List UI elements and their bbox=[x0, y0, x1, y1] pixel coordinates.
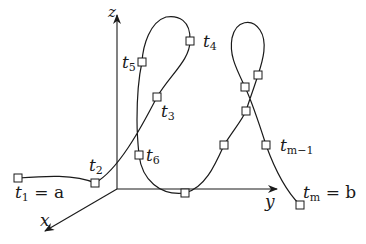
label-t2-var: t bbox=[89, 155, 96, 175]
label-t3-sub: 3 bbox=[168, 110, 175, 123]
point-t6 bbox=[135, 151, 143, 159]
label-t3: t3 bbox=[161, 103, 175, 122]
label-t1-eq: = a bbox=[34, 182, 64, 202]
point-cross-low bbox=[242, 107, 250, 115]
axes bbox=[45, 15, 277, 231]
label-tm1: tm−1 bbox=[280, 137, 314, 156]
label-t6-sub: 6 bbox=[153, 154, 160, 167]
point-t2 bbox=[91, 179, 99, 187]
point-t1 bbox=[14, 174, 22, 182]
label-tm-sub: m bbox=[310, 191, 320, 204]
label-t6: t6 bbox=[146, 147, 160, 166]
label-t2: t2 bbox=[89, 157, 103, 176]
label-t1-var: t bbox=[15, 182, 22, 202]
point-t5 bbox=[138, 58, 146, 66]
space-curve bbox=[18, 17, 300, 205]
x-axis-label: x bbox=[40, 212, 50, 229]
label-t4-sub: 4 bbox=[210, 40, 217, 53]
label-t1-sub: 1 bbox=[22, 191, 29, 204]
label-t4-var: t bbox=[203, 31, 210, 51]
label-tm-var: t bbox=[303, 182, 310, 202]
point-tm1 bbox=[262, 141, 270, 149]
label-t3-var: t bbox=[161, 101, 168, 121]
label-t5: t5 bbox=[122, 54, 136, 73]
label-tm1-var: t bbox=[280, 135, 287, 155]
point-t4 bbox=[186, 37, 194, 45]
label-t5-sub: 5 bbox=[129, 61, 136, 74]
curve-diagram bbox=[0, 0, 366, 244]
label-t2-sub: 2 bbox=[96, 164, 103, 177]
label-tm-eq: = b bbox=[326, 182, 357, 202]
label-tm: tm = b bbox=[303, 184, 356, 203]
point-loop-left bbox=[241, 83, 249, 91]
label-t4: t4 bbox=[203, 33, 217, 52]
diagram-canvas: z y x t1 = a t2 t3 t4 t5 t6 tm−1 tm = b bbox=[0, 0, 366, 244]
point-loop-right bbox=[254, 71, 262, 79]
point-bottom bbox=[181, 189, 189, 197]
point-t3 bbox=[153, 93, 161, 101]
point-rise bbox=[220, 141, 228, 149]
label-t5-var: t bbox=[122, 52, 129, 72]
label-t1: t1 = a bbox=[15, 184, 64, 203]
label-t6-var: t bbox=[146, 145, 153, 165]
label-tm1-sub: m−1 bbox=[287, 144, 314, 157]
z-axis-label: z bbox=[108, 5, 116, 20]
y-axis-label: y bbox=[265, 193, 275, 210]
